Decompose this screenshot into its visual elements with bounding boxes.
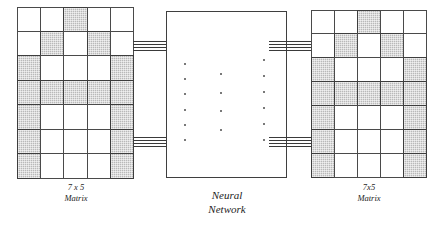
connection-wire [269,146,314,147]
output-matrix-cell [334,81,358,106]
ellipsis-dot [263,139,265,141]
neural-network-caption-line2: Network [186,203,268,217]
output-matrix-cell [403,153,427,178]
ellipsis-dot [263,75,265,77]
input-matrix-cell [110,55,134,80]
output-matrix-cell [357,129,381,154]
input-matrix-cell [87,7,111,32]
hidden-layer-ellipsis [219,73,222,131]
output-matrix-cell [380,33,404,58]
input-matrix-cell [63,104,87,129]
output-matrix-cell [380,153,404,178]
output-matrix-cell [311,105,335,130]
input-matrix-cell [63,153,87,178]
input-matrix-cell [40,55,64,80]
ellipsis-dot [263,91,265,93]
input-matrix-grid [17,7,134,178]
output-layer-ellipsis [262,59,265,141]
output-matrix-cell [357,33,381,58]
input-matrix-cell [87,129,111,154]
output-matrix-cell [403,105,427,130]
input-matrix-cell [40,153,64,178]
input-matrix-cell [17,80,41,105]
connection-wire [269,143,314,144]
ellipsis-dot [220,92,222,94]
output-matrix-grid [311,10,426,177]
input-matrix-cell [110,31,134,56]
input-matrix-cell [63,129,87,154]
output-matrix-cell [334,57,358,82]
connection-wire [269,140,314,141]
ellipsis-dot [184,139,186,141]
input-matrix-cell [17,31,41,56]
output-matrix-cell [380,105,404,130]
input-matrix-cell [17,104,41,129]
output-matrix-cell [403,10,427,35]
output-matrix-cell [357,105,381,130]
output-matrix-cell [334,33,358,58]
input-matrix-cell [110,7,134,32]
neural-network-caption-line1: Neural [186,189,268,203]
input-matrix-caption: 7 x 5 Matrix [20,182,132,203]
output-matrix-cell [311,129,335,154]
neural-network-caption: Neural Network [186,189,268,217]
input-matrix-cell [110,80,134,105]
output-matrix-cell [357,81,381,106]
input-matrix-cell [17,129,41,154]
input-matrix-cell [63,80,87,105]
ellipsis-dot [220,73,222,75]
input-matrix-cell [87,153,111,178]
output-matrix-cell [380,81,404,106]
output-matrix-cell [334,153,358,178]
input-matrix-cell [110,129,134,154]
output-matrix-cell [380,10,404,35]
output-matrix-caption-line1: 7x5 [314,182,424,193]
connection-wire [269,47,314,48]
connection-wire [269,50,314,51]
output-matrix-cell [311,81,335,106]
output-matrix-cell [403,129,427,154]
input-matrix-caption-line1: 7 x 5 [20,182,132,193]
input-matrix-cell [110,104,134,129]
connection-wire [269,137,314,138]
input-matrix-cell [40,7,64,32]
input-matrix-cell [40,31,64,56]
output-matrix-cell [311,153,335,178]
ellipsis-dot [220,110,222,112]
input-matrix-cell [63,55,87,80]
input-matrix-cell [110,153,134,178]
ellipsis-dot [184,124,186,126]
input-matrix-cell [17,153,41,178]
ellipsis-dot [184,78,186,80]
output-matrix-caption: 7x5 Matrix [314,182,424,203]
input-matrix-cell [40,129,64,154]
output-matrix-cell [334,10,358,35]
input-matrix-cell [87,104,111,129]
input-matrix-cell [87,55,111,80]
output-matrix-cell [357,57,381,82]
output-matrix-cell [334,129,358,154]
input-matrix-cell [63,31,87,56]
output-matrix-cell [311,33,335,58]
input-matrix-caption-line2: Matrix [20,193,132,204]
connection-wire [269,41,314,42]
output-matrix-cell [403,33,427,58]
output-matrix-cell [403,81,427,106]
ellipsis-dot [220,129,222,131]
output-matrix-cell [403,57,427,82]
input-matrix-cell [40,104,64,129]
output-matrix-cell [380,129,404,154]
input-layer-ellipsis [183,63,186,141]
output-top-bundle [269,41,314,53]
input-matrix-cell [87,80,111,105]
ellipsis-dot [263,59,265,61]
input-matrix-cell [17,7,41,32]
output-bottom-bundle [269,137,314,149]
connection-wire [269,44,314,45]
input-matrix-cell [87,31,111,56]
diagram-canvas: 7 x 5 Matrix Neural Network 7x5 Matrix [0,0,446,229]
ellipsis-dot [263,107,265,109]
input-matrix-cell [17,55,41,80]
output-matrix-cell [311,57,335,82]
ellipsis-dot [184,93,186,95]
